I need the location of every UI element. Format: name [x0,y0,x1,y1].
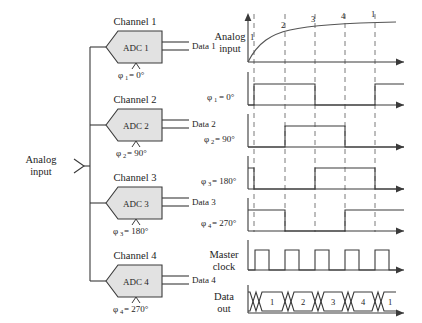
channel-block-3: ADC 3 Channel 3 Data 3 φ 3 = 180° [90,172,216,237]
waveform-row-phi1: φ 1 = 0° [207,72,404,108]
analog-input-label-line2: input [30,166,52,177]
analog-axis-x-arrow [396,59,404,66]
adc-4-clock-arrow [132,297,140,303]
analog-input-port [74,159,90,173]
data-4-label: Data 4 [192,275,216,285]
channel-1-title: Channel 1 [114,16,157,27]
master-clock-waveform [248,250,396,270]
phi1-row-symbol: φ [207,92,212,102]
sample-marker-lines [254,14,375,232]
data-out-value-3: 3 [331,297,335,307]
phi-2-index: 2 [123,152,126,159]
dataout-axis-x-arrow [396,310,404,317]
data-out-value-1: 1 [270,297,274,307]
phi-3-value: = 180° [124,226,149,236]
data-out-value-4: 4 [361,297,366,307]
data-1-label: Data 1 [192,41,216,51]
data-out-value-2: 2 [301,297,305,307]
analog-input-row-label-line2: input [219,43,241,54]
phi2-row-symbol: φ [204,134,209,144]
adc-2-label: ADC 2 [123,121,149,131]
data-out-label-line1: Data [214,291,234,302]
phi3-row-index: 3 [208,180,211,187]
analog-axis-y-arrow [245,13,252,21]
data-out-label-line2: out [217,303,231,314]
channel-2-title: Channel 2 [114,94,157,105]
phi-2-value: = 90° [127,148,147,158]
phi-1-value: = 0° [129,70,145,80]
diagram-canvas: Analog input ADC 1 Channel 1 Data 1 φ 1 … [0,0,422,323]
analog-input-curve [248,22,396,62]
data-out-value-5: 1 [388,297,392,307]
sample-marker-label-3: 3 [311,14,315,24]
channel-4-title: Channel 4 [114,250,158,261]
phi2-row-value: = 90° [215,134,235,144]
phi2-waveform [248,126,404,147]
phi-2-symbol: φ [116,148,121,158]
figure-root: Analog input ADC 1 Channel 1 Data 1 φ 1 … [0,0,422,323]
phi-4-symbol: φ [113,304,118,314]
phi4-axis-x-arrow [396,228,404,235]
phi-1-symbol: φ [118,70,123,80]
channel-block-2: ADC 2 Channel 2 Data 2 φ 2 = 90° [90,94,216,159]
data-3-label: Data 3 [192,197,216,207]
phi1-axis-x-arrow [396,102,404,109]
analog-input-row-label-line1: Analog [215,31,247,42]
waveform-row-data-out: Data out 1 2 3 4 1 [214,285,404,316]
master-clock-label-line1: Master [209,249,239,260]
clock-axis-x-arrow [396,267,404,274]
phi-1-index: 1 [125,74,128,81]
phi4-row-symbol: φ [201,218,206,228]
phi-3-index: 3 [120,230,123,237]
adc-3-label: ADC 3 [123,199,149,209]
adc-4-label: ADC 4 [123,277,149,287]
phi1-waveform [248,84,404,105]
adc-1-label: ADC 1 [123,43,149,53]
phi3-row-symbol: φ [201,176,206,186]
channel-block-1: ADC 1 Channel 1 Data 1 φ 1 = 0° [90,16,216,81]
master-clock-label-line2: clock [213,261,236,272]
phi-3-symbol: φ [113,226,118,236]
adc-2-clock-arrow [132,141,140,147]
waveform-row-phi4: φ 4 = 270° [201,198,404,234]
waveform-row-analog-input: Analog input 1 2 3 4 1 [215,9,404,65]
waveform-row-phi2: φ 2 = 90° [204,114,404,150]
channel-3-title: Channel 3 [114,172,157,183]
phi4-waveform [248,210,404,231]
channel-block-4: ADC 4 Channel 4 Data 4 φ 4 = 270° [90,250,216,315]
waveform-row-phi3: φ 3 = 180° [201,156,404,192]
block-diagram: Analog input ADC 1 Channel 1 Data 1 φ 1 … [26,16,217,315]
analog-input-label-line1: Analog [26,154,58,165]
timing-diagram: Analog input 1 2 3 4 1 φ 1 = 0° φ 2 = 90 [201,9,404,316]
data-2-label: Data 2 [192,119,216,129]
phi2-row-index: 2 [211,138,214,145]
sample-marker-label-2: 2 [281,20,285,30]
sample-marker-label-1: 1 [250,32,254,42]
phi3-row-value: = 180° [212,176,237,186]
adc-3-clock-arrow [132,219,140,225]
phi1-row-index: 1 [214,96,217,103]
phi3-waveform [248,168,404,189]
waveform-row-master-clock: Master clock [209,240,404,273]
adc-1-clock-arrow [132,63,140,69]
phi1-row-value: = 0° [219,92,235,102]
phi-4-value: = 270° [124,304,149,314]
sample-marker-label-5: 1 [371,9,375,19]
phi4-row-value: = 270° [212,218,237,228]
